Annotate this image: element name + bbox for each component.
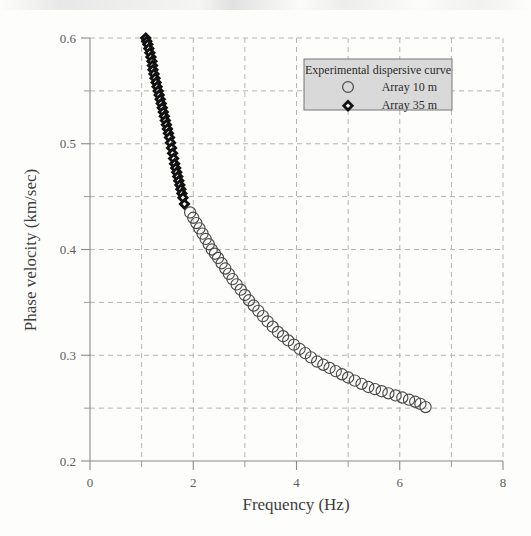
data-point-circle	[363, 381, 374, 392]
data-point-circle	[356, 378, 367, 389]
series-array-35m	[140, 32, 191, 210]
dispersion-curve-chart: 024680.20.30.40.50.6 Frequency (Hz) Phas…	[0, 0, 531, 536]
legend-title: Experimental dispersive curve	[305, 63, 451, 77]
data-point-circle	[330, 366, 341, 377]
figure-page: 024680.20.30.40.50.6 Frequency (Hz) Phas…	[0, 0, 531, 536]
data-point-circle	[376, 386, 387, 397]
legend-entry-label-1: Array 35 m	[382, 98, 438, 112]
y-tick-label: 0.5	[60, 136, 76, 151]
data-point-circle	[383, 388, 394, 399]
data-point-circle	[336, 369, 347, 380]
y-tick-label: 0.6	[60, 31, 77, 46]
x-tick-label: 0	[87, 475, 94, 490]
y-axis-title: Phase velocity (km/sec)	[21, 169, 40, 331]
x-axis-title: Frequency (Hz)	[242, 495, 349, 514]
x-tick-label: 4	[293, 475, 300, 490]
x-tick-label: 6	[397, 475, 404, 490]
legend-entry-label-0: Array 10 m	[382, 80, 438, 94]
x-tick-label: 2	[190, 475, 197, 490]
data-point-circle	[312, 356, 323, 367]
y-tick-label: 0.2	[60, 454, 76, 469]
y-tick-label: 0.3	[60, 348, 76, 363]
data-point-circle	[397, 392, 408, 403]
data-point-circle	[324, 362, 335, 373]
data-point-circle	[369, 383, 380, 394]
x-tick-label: 8	[500, 475, 507, 490]
data-point-circle	[403, 394, 414, 405]
data-point-circle	[349, 375, 360, 386]
data-point-circle	[318, 359, 329, 370]
data-point-circle	[390, 390, 401, 401]
series-array-10m	[185, 207, 432, 413]
y-tick-label: 0.4	[60, 242, 77, 257]
legend: Experimental dispersive curve Array 10 m…	[304, 59, 452, 112]
